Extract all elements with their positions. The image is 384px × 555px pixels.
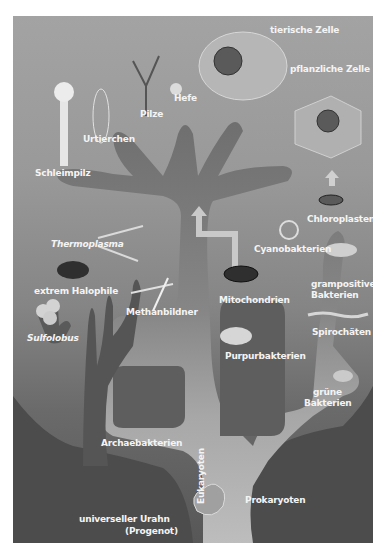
label-green-bacteria: Bakterien <box>304 398 352 408</box>
label-prokaryotes: Prokaryoten <box>245 495 305 505</box>
label-protozoa: Urtierchen <box>83 134 135 144</box>
animal-nucleus <box>214 47 242 75</box>
purple-bacterium <box>220 327 252 345</box>
label-methanogens: Methanbildner <box>126 307 198 317</box>
label-mitochondria: Mitochondrien <box>219 295 290 305</box>
chloroplast-arrow-head <box>325 170 339 178</box>
fungus <box>133 56 159 116</box>
label-fungi: Pilze <box>140 109 163 119</box>
slime-mold-stalk <box>60 91 68 166</box>
label-halophiles: extrem Halophile <box>34 286 118 296</box>
animal-cell <box>199 32 287 100</box>
thermoplasma-1 <box>98 226 143 238</box>
label-slime-mold: Schleimpilz <box>35 168 91 178</box>
plant-nucleus <box>317 110 339 132</box>
label-grampositive-bacteria: Bakterien <box>311 290 359 300</box>
sulfolobus-cell-2 <box>46 299 60 313</box>
label-eukaryotes: Eukaryoten <box>196 448 206 504</box>
mitochondrion <box>224 266 258 282</box>
label-progenote: (Progenot) <box>125 526 178 536</box>
label-yeast: Hefe <box>174 93 197 103</box>
label-universal-ancestor: universeller Urahn <box>79 514 170 524</box>
spirochete <box>308 313 368 317</box>
label-purple-bacteria: Purpurbakterien <box>225 351 306 361</box>
label-sulfolobus: Sulfolobus <box>27 333 79 343</box>
halophile <box>57 261 89 279</box>
label-spirochetes: Spirochäten <box>312 327 371 337</box>
green-bacteria <box>333 370 353 382</box>
label-chloroplasts: Chloroplasten <box>307 214 373 224</box>
recess-left <box>113 366 185 428</box>
slime-mold-cap <box>54 82 74 102</box>
label-plant-cell: pflanzliche Zelle <box>290 64 370 74</box>
chloroplast <box>319 195 343 205</box>
sulfolobus-cell-3 <box>43 311 57 325</box>
label-grampositive: grampositive <box>311 279 373 289</box>
cyanobacteria <box>280 221 298 239</box>
label-thermoplasma: Thermoplasma <box>51 239 124 249</box>
tree-of-life-diagram: tierische Zelle pflanzliche Zelle Hefe P… <box>13 16 373 543</box>
label-cyanobacteria: Cyanobakterien <box>254 244 331 254</box>
label-green: grüne <box>313 387 342 397</box>
label-archaea: Archaebakterien <box>101 438 182 448</box>
label-animal-cell: tierische Zelle <box>270 25 339 35</box>
recess-middle <box>220 301 285 436</box>
